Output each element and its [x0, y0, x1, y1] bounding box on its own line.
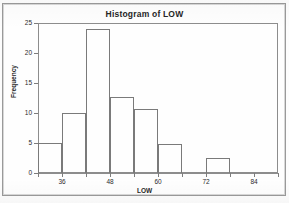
x-tick-label-60: 60	[146, 178, 170, 185]
y-tick-label-20: 20	[2, 49, 32, 56]
x-tick-42	[86, 173, 87, 177]
page-title: Histogram of LOW	[0, 9, 289, 19]
x-tick-30	[38, 173, 39, 177]
y-tick-20	[34, 53, 38, 54]
histogram-figure: Histogram of LOW 0510152025 3648607284 F…	[0, 0, 289, 203]
x-tick-72	[206, 173, 207, 177]
y-tick-label-25: 25	[2, 19, 32, 26]
y-tick-label-15: 15	[2, 79, 32, 86]
histogram-bar	[110, 97, 134, 173]
y-tick-10	[34, 113, 38, 114]
x-tick-label-72: 72	[194, 178, 218, 185]
x-axis-title: LOW	[0, 187, 289, 194]
y-tick-label-0: 0	[2, 169, 32, 176]
histogram-bar	[158, 144, 182, 173]
y-tick-15	[34, 83, 38, 84]
x-tick-label-36: 36	[50, 178, 74, 185]
x-tick-36	[62, 173, 63, 177]
x-tick-54	[134, 173, 135, 177]
x-tick-66	[182, 173, 183, 177]
x-tick-48	[110, 173, 111, 177]
histogram-bar	[206, 158, 230, 173]
x-tick-label-84: 84	[242, 178, 266, 185]
x-tick-90	[278, 173, 279, 177]
histogram-bar	[38, 143, 62, 173]
x-tick-84	[254, 173, 255, 177]
x-tick-label-48: 48	[98, 178, 122, 185]
x-tick-60	[158, 173, 159, 177]
y-tick-25	[34, 23, 38, 24]
y-tick-label-5: 5	[2, 139, 32, 146]
histogram-bar	[134, 109, 158, 173]
x-tick-78	[230, 173, 231, 177]
y-tick-label-10: 10	[2, 109, 32, 116]
histogram-bar	[62, 113, 86, 173]
y-axis-title: Frequency	[10, 52, 17, 112]
histogram-bar	[86, 29, 110, 173]
